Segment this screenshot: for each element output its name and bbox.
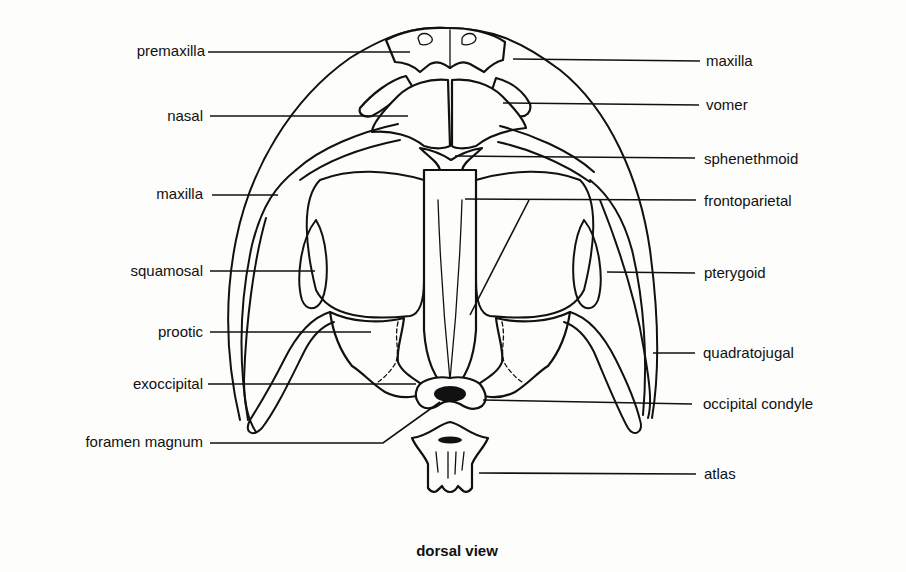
- label-sphenethmoid: sphenethmoid: [704, 150, 798, 167]
- label-exoccipital: exoccipital: [133, 375, 203, 392]
- frontoparietal: [424, 170, 476, 392]
- label-quadratojugal: quadratojugal: [703, 344, 794, 361]
- pterygoid-left: [248, 312, 334, 433]
- label-nasal: nasal: [167, 107, 203, 124]
- label-pterygoid: pterygoid: [704, 264, 766, 281]
- label-prootic: prootic: [158, 323, 204, 340]
- label-vomer: vomer: [706, 96, 748, 113]
- leader-pterygoid: [607, 272, 695, 273]
- label-squamosal: squamosal: [130, 262, 203, 279]
- label-occipital-condyle: occipital condyle: [703, 395, 813, 412]
- leader-sphenethmoid: [455, 156, 695, 158]
- squamosal-right: [573, 220, 600, 308]
- label-foramen-magnum: foramen magnum: [85, 433, 203, 450]
- label-maxilla-right: maxilla: [706, 52, 753, 69]
- skull-drawing: [228, 28, 657, 492]
- label-premaxilla: premaxilla: [137, 42, 206, 59]
- label-maxilla-left: maxilla: [156, 185, 203, 202]
- atlas-canal: [438, 437, 462, 444]
- label-atlas: atlas: [704, 465, 736, 482]
- skull-diagram: premaxilla nasal maxilla squamosal proot…: [0, 0, 906, 572]
- premaxilla-bones: [386, 28, 505, 72]
- leader-vomer: [503, 103, 699, 105]
- leader-atlas: [479, 473, 696, 474]
- leader-occipital-condyle: [483, 400, 692, 404]
- labels-left: premaxilla nasal maxilla squamosal proot…: [85, 42, 205, 450]
- labels-right: maxilla vomer sphenethmoid frontoparieta…: [703, 52, 813, 482]
- figure-title: dorsal view: [416, 542, 498, 559]
- leader-frontoparietal-diagonal: [470, 200, 529, 315]
- squamosal-left: [299, 220, 326, 308]
- leader-foramen-magnum: [210, 402, 440, 443]
- atlas-vertebra: [412, 422, 488, 492]
- leader-maxilla-right: [513, 59, 700, 61]
- pterygoid-right: [564, 312, 641, 433]
- leader-frontoparietal: [465, 199, 696, 200]
- otic-capsule-right: [470, 312, 570, 397]
- label-frontoparietal: frontoparietal: [704, 192, 792, 209]
- foramen-magnum-opening: [434, 386, 466, 402]
